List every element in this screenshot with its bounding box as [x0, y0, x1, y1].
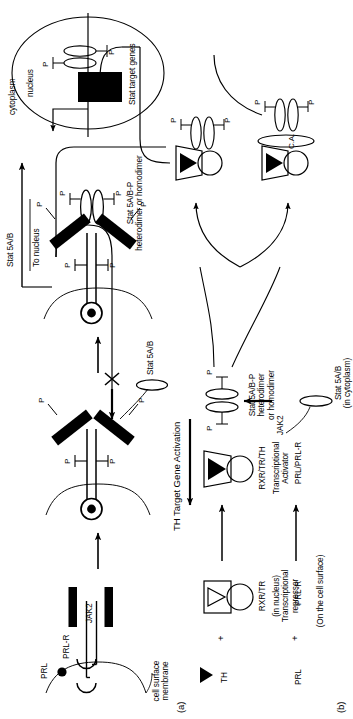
fork-arrow-to-complex-B: [240, 203, 288, 267]
complexA-stat-1: [191, 117, 201, 149]
label-jak2: JAK2: [85, 604, 94, 623]
p-label-jak-up-2: P: [38, 398, 47, 403]
label-nucleus: nucleus: [26, 69, 35, 97]
label-prl-r-b-sub: (On the cell surface): [316, 543, 325, 639]
p-label-statb-right: P: [206, 370, 215, 375]
p-label-statb-left: P: [206, 426, 215, 431]
blocked-activation-arrow: [56, 147, 166, 419]
stat5ab-cytoplasmic-ellipse: [300, 396, 332, 406]
p-leader-jak-up-2: [48, 404, 57, 415]
p-label-complexB-dn: P: [308, 100, 317, 105]
label-prl-r: PRL-R: [62, 635, 71, 659]
stat5ab-recruit-leader: [120, 389, 148, 419]
plus-sign-row1: +: [216, 635, 227, 641]
cell-membrane-curve-1: [46, 662, 146, 693]
p-label-jak-dn-2: P: [138, 398, 147, 403]
statb-dimer-ellipse-2: [206, 389, 238, 399]
complex-no-coactivator: [176, 117, 224, 180]
rxr-tr-empty-v: [208, 588, 225, 606]
complexA-stat-2: [204, 117, 214, 149]
cell-membrane-curve-3: [44, 288, 152, 319]
jak2-activated-2: [51, 410, 134, 446]
th-triangle-symbol: [200, 667, 213, 683]
p-label-dimer-up: P: [59, 191, 68, 196]
panel-b-identifier: (b): [336, 702, 347, 713]
complexB-stat-1: [275, 99, 285, 131]
plus-sign-row2: +: [290, 635, 301, 641]
p-label-complexA-dn: P: [224, 118, 233, 123]
label-cell-surface-membrane: cell surface membrane: [152, 645, 171, 717]
p-label-nuclear-dn: P: [108, 50, 117, 55]
stat-branch-curve-upper: [200, 267, 214, 367]
label-to-nucleus: To nucleus: [32, 228, 41, 267]
label-prl: PRL: [40, 653, 49, 689]
label-stat-dimer-b: Stat 5A/B-P heterodimer or homodimer: [248, 343, 276, 447]
p-label-recv-up-3: P: [64, 263, 73, 268]
p-label-complexA-up: P: [170, 118, 179, 123]
stat5ab-free-ellipse: [137, 380, 168, 390]
label-stat5ab-free: Stat 5A/B: [146, 341, 155, 375]
label-prl-r-b: PRL-R: [294, 563, 303, 623]
blocked-path-curve: [214, 55, 262, 115]
title-th-target-gene-activation: TH Target Gene Activation: [172, 422, 183, 531]
cell-membrane-curve-2: [46, 484, 150, 515]
jak2-bar-upper-1: [69, 587, 78, 627]
prl-r-hook-left: [77, 683, 96, 693]
p-label-recv-up-2: P: [64, 459, 73, 464]
complexA-filled-v: [180, 153, 197, 173]
fork-arrow-to-complex-A: [196, 203, 240, 267]
label-cytoplasm: cytoplasm: [8, 79, 17, 115]
p-label-complexB-up: P: [254, 100, 263, 105]
label-th: TH: [220, 672, 229, 683]
rxr-tr-th-filled-v: [208, 458, 226, 480]
label-stat-target-genes: Stat target genes: [128, 44, 137, 106]
label-prl-prl-r: PRL/PRL-R: [294, 421, 303, 505]
complexB-filled-v: [266, 153, 283, 173]
p-label-recv-dn-3: P: [109, 263, 118, 268]
nuclear-stat-ellipse-2: [64, 46, 96, 56]
p-label-recv-dn-2: P: [109, 459, 118, 464]
panel-a-identifier: (a): [176, 702, 187, 713]
label-jak2-b: JAK2: [276, 416, 285, 435]
complexB-stat-2: [288, 99, 298, 131]
complex-with-coactivator: [258, 99, 314, 180]
jak2-bar-lower-1: [105, 587, 114, 627]
p-label-nuclear-up: P: [42, 62, 51, 67]
nuclear-stat-ellipse-1: [64, 58, 96, 68]
label-prl-b: PRL: [294, 669, 303, 685]
coactivator-ellipse: [258, 135, 314, 147]
label-stat5ab-cytoplasm: Stat 5A/B (in cytoplasm): [334, 339, 353, 427]
p-label-dimer-dn: P: [115, 191, 124, 196]
label-coactivator: C.A.: [288, 134, 297, 149]
statb-dimer-ellipse-1: [206, 402, 238, 412]
prl-ligand-dot-3: [87, 309, 96, 318]
label-rxr-tr: RXR/TR: [258, 561, 267, 631]
p-label-jak-up-3: P: [36, 202, 45, 207]
label-stat5ab-translocating: Stat 5A/B: [6, 233, 15, 267]
label-stat-dimer-a: Stat 5A/B-P heterodimer or homodimer: [126, 143, 145, 263]
prl-ligand-dot-2: [87, 505, 96, 514]
